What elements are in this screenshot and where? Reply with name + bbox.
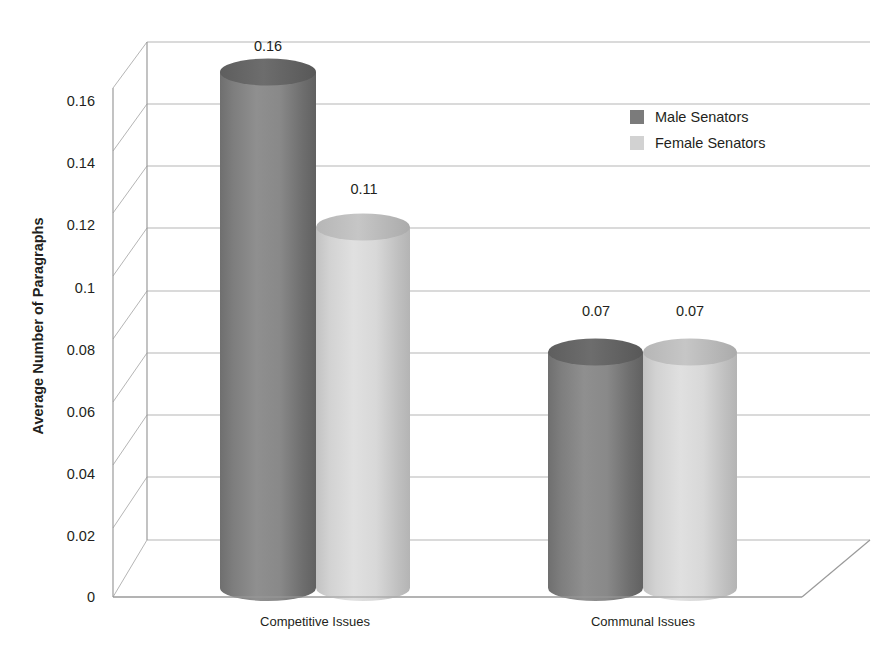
y-axis-title: Average Number of Paragraphs: [30, 216, 46, 436]
value-label-competitive-male: 0.16: [242, 38, 294, 54]
cylinder-body: [316, 227, 410, 601]
left-wall: [113, 42, 147, 597]
bar-competitive-male[interactable]: [220, 59, 316, 602]
legend-label-female: Female Senators: [655, 135, 765, 151]
cylinder-top: [316, 214, 410, 241]
bar-chart: Average Number of Paragraphs 0.16 0.14 0…: [0, 0, 880, 660]
legend-swatch-male-icon: [630, 110, 644, 124]
bar-communal-female[interactable]: [643, 339, 737, 602]
legend-swatch-female-icon: [630, 136, 644, 150]
cylinder-top: [548, 339, 643, 366]
value-label-communal-male: 0.07: [570, 303, 622, 319]
x-category-label-competitive: Competitive Issues: [225, 614, 405, 629]
value-label-communal-female: 0.07: [664, 303, 716, 319]
cylinder-top: [220, 59, 316, 86]
legend-item-male[interactable]: Male Senators: [630, 104, 810, 130]
bar-competitive-female[interactable]: [316, 214, 410, 602]
y-tick-label-0-16: 0.16: [10, 93, 95, 109]
bar-communal-male[interactable]: [548, 339, 643, 602]
y-tick-label-0-12: 0.12: [10, 217, 95, 233]
value-label-competitive-female: 0.11: [338, 181, 390, 197]
chart-canvas: [0, 0, 880, 660]
y-tick-label-0: 0: [10, 589, 95, 605]
chart-legend: Male Senators Female Senators: [630, 104, 810, 156]
y-tick-label-0-06: 0.06: [10, 404, 95, 420]
y-tick-label-0-1: 0.1: [10, 280, 95, 296]
x-category-label-communal: Communal Issues: [553, 614, 733, 629]
legend-item-female[interactable]: Female Senators: [630, 130, 810, 156]
cylinder-top: [643, 339, 737, 366]
y-tick-label-0-14: 0.14: [10, 155, 95, 171]
cylinder-body: [220, 72, 316, 601]
cylinder-body: [548, 352, 643, 601]
legend-label-male: Male Senators: [655, 109, 749, 125]
y-tick-label-0-02: 0.02: [10, 528, 95, 544]
y-tick-label-0-08: 0.08: [10, 342, 95, 358]
cylinder-body: [643, 352, 737, 601]
y-tick-label-0-04: 0.04: [10, 466, 95, 482]
